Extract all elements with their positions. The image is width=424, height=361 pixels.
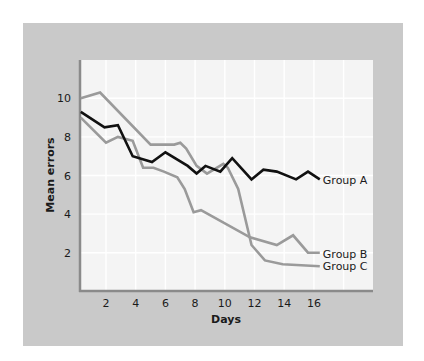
line-chart: 246810121416246810 Group BGroup CGroup A… xyxy=(0,0,424,361)
y-tick-label: 4 xyxy=(64,208,71,221)
chart-figure: 246810121416246810 Group BGroup CGroup A… xyxy=(0,0,424,361)
x-tick-label: 8 xyxy=(192,297,199,310)
y-tick-label: 8 xyxy=(64,131,71,144)
y-tick-label: 2 xyxy=(64,247,71,260)
x-tick-label: 6 xyxy=(162,297,169,310)
y-axis-title: Mean errors xyxy=(44,137,57,213)
y-tick-label: 10 xyxy=(57,92,71,105)
series-label-group-a: Group A xyxy=(323,174,368,187)
x-tick-label: 16 xyxy=(307,297,321,310)
y-tick-label: 6 xyxy=(64,170,71,183)
series-label-group-c: Group C xyxy=(323,260,368,273)
x-tick-label: 2 xyxy=(103,297,110,310)
x-tick-label: 4 xyxy=(132,297,139,310)
x-tick-label: 14 xyxy=(277,297,291,310)
x-tick-label: 10 xyxy=(218,297,232,310)
x-axis-title: Days xyxy=(211,313,241,326)
x-tick-label: 12 xyxy=(248,297,262,310)
